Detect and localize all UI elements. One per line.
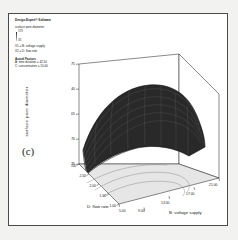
y-tick-label: 305 — [71, 112, 75, 116]
response-name: surface pore diameter — [15, 26, 77, 30]
figure-frame: Design-Expert® Software surface pore dia… — [8, 13, 228, 226]
z-tick-label: 21.00 — [209, 183, 218, 187]
axis-x2-mapping: X2 = D: flow rate — [15, 50, 77, 54]
surface-plot-svg: 575 440 305 170 35 — [71, 52, 223, 222]
z-tick-label: 17.00 — [186, 192, 195, 196]
z-axis-label: B: voltage supply — [169, 210, 202, 215]
z-tick-label: 5.00 — [119, 209, 126, 213]
x-tick-label: 2.50 — [79, 174, 86, 178]
y-tick-label: 170 — [71, 137, 75, 141]
plot-legend: Design-Expert® Software surface pore dia… — [15, 19, 77, 68]
y-axis-ticks — [76, 64, 79, 164]
x-tick-label: 1.50 — [99, 194, 106, 198]
color-scale-low: 35 — [18, 39, 21, 42]
color-scale: 573 35 — [15, 30, 77, 43]
x-tick-label: 2.00 — [89, 184, 96, 188]
y-tick-label: 440 — [71, 87, 75, 91]
y-tick-label: 575 — [71, 62, 75, 66]
x-tick-label: 1.00 — [109, 204, 116, 208]
x-axis-label: D: flow rate — [87, 204, 109, 209]
z-tick-label: 9.00 — [138, 209, 145, 213]
software-title: Design-Expert® Software — [15, 19, 77, 23]
y-axis-tick-labels: 575 440 305 170 35 — [71, 62, 75, 166]
color-scale-high: 573 — [18, 30, 22, 33]
axis-x1-mapping: X1 = B: voltage supply — [15, 45, 77, 49]
x-tick-label: 3.00 — [71, 164, 76, 168]
surface-plot: 575 440 305 170 35 — [71, 52, 223, 222]
color-scale-bar — [16, 32, 18, 42]
y-axis-label: surface pore diameter — [24, 67, 29, 157]
z-tick-label: 13.00 — [161, 201, 170, 205]
